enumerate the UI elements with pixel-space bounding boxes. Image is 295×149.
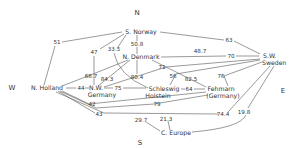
edge-snorway-63 — [160, 32, 224, 40]
value-76: 76 — [217, 73, 225, 79]
edge-ndenmark-nwgermany — [98, 60, 130, 86]
node-fehmarn-line1: Fehmarn — [207, 85, 234, 92]
compass-west: W — [9, 84, 16, 92]
node-n-denmark: N. Denmark — [122, 53, 159, 60]
edge-198-ceurope — [192, 115, 246, 132]
edge-297-ceurope — [146, 122, 160, 131]
node-s-norway: S. Norway — [125, 28, 157, 36]
compass-north: N — [134, 9, 139, 17]
edge-swsweden-198 — [248, 66, 274, 108]
node-schleswig-line2: Holstein — [145, 92, 170, 99]
value-64: 64 — [185, 86, 193, 92]
node-sw-sweden-line1: S.W. — [263, 52, 276, 59]
node-fehmarn-line2: (Germany) — [206, 92, 239, 100]
value-79: 79 — [153, 101, 161, 107]
migration-diagram: N S W E S. Norway N. Denmark S.W. Sweden… — [0, 0, 295, 149]
value-47: 47 — [90, 49, 98, 55]
value-19-8: 19.8 — [238, 109, 251, 115]
value-50-8: 50.8 — [131, 41, 144, 47]
edge-63-swsweden — [234, 41, 260, 54]
value-51: 51 — [53, 39, 61, 45]
edge-51-nholland — [44, 46, 55, 85]
edge-snorway-51 — [62, 32, 122, 42]
value-21-3: 21.3 — [160, 116, 173, 122]
value-43: 43 — [95, 111, 103, 117]
value-74-4: 74.4 — [217, 111, 230, 117]
value-71: 71 — [158, 64, 166, 70]
compass-east: E — [281, 87, 285, 95]
value-75: 75 — [114, 85, 122, 91]
value-68-7: 68.7 — [85, 73, 98, 79]
node-c-europe: C. Europe — [161, 129, 191, 137]
value-80-4: 80.4 — [131, 74, 144, 80]
node-nw-germany-line2: Germany — [88, 91, 117, 99]
edge-swsweden-fehmarn — [224, 62, 262, 86]
value-42: 42 — [88, 101, 95, 107]
edge-ndenmark-70 — [161, 56, 226, 57]
value-33-5: 33.5 — [108, 46, 121, 52]
compass-south: S — [138, 139, 143, 147]
node-n-holland: N. Holland — [31, 84, 63, 91]
value-70: 70 — [227, 53, 235, 59]
edge-swsweden-schleswig — [170, 60, 260, 85]
value-82-5: 82.5 — [185, 76, 198, 82]
value-48-7: 48.7 — [194, 48, 207, 54]
edge-nholland-744 — [56, 92, 218, 114]
diagram-canvas: N S W E S. Norway N. Denmark S.W. Sweden… — [0, 0, 295, 149]
value-84-3: 84.3 — [101, 76, 114, 82]
node-sw-sweden-line2: Sweden — [262, 59, 287, 66]
value-44: 44 — [77, 85, 85, 91]
node-nw-germany-line1: N.W. — [89, 84, 103, 91]
value-29-7: 29.7 — [135, 117, 148, 123]
value-63: 63 — [225, 37, 233, 43]
value-56: 56 — [169, 73, 177, 79]
